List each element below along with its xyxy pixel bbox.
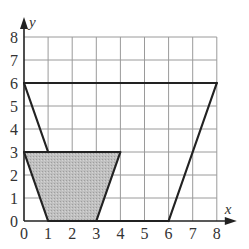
y-tick-label: 6 bbox=[10, 75, 18, 92]
x-tick-label: 0 bbox=[20, 225, 28, 242]
y-tick-label: 5 bbox=[10, 98, 18, 115]
coordinate-grid-figure: x y 012345678 012345678 bbox=[0, 0, 249, 249]
y-tick-label: 1 bbox=[10, 190, 18, 207]
x-tick-label: 5 bbox=[141, 225, 149, 242]
y-tick-label: 0 bbox=[10, 213, 18, 230]
y-tick-label: 7 bbox=[10, 52, 18, 69]
y-tick-label: 3 bbox=[10, 144, 18, 161]
x-tick-label: 7 bbox=[189, 225, 197, 242]
x-axis-label: x bbox=[224, 201, 232, 217]
y-axis-arrow-icon bbox=[20, 17, 28, 29]
x-tick-labels: 012345678 bbox=[20, 225, 221, 242]
x-tick-label: 1 bbox=[44, 225, 52, 242]
y-axis-label: y bbox=[27, 14, 36, 30]
y-tick-labels: 012345678 bbox=[10, 29, 18, 230]
x-tick-label: 3 bbox=[92, 225, 100, 242]
y-tick-label: 4 bbox=[10, 121, 18, 138]
y-tick-label: 2 bbox=[10, 167, 18, 184]
x-tick-label: 6 bbox=[165, 225, 173, 242]
x-tick-label: 8 bbox=[213, 225, 221, 242]
shaded-trapezoid bbox=[24, 152, 120, 221]
x-axis-arrow-icon bbox=[225, 217, 237, 225]
x-tick-label: 4 bbox=[116, 225, 124, 242]
x-tick-label: 2 bbox=[68, 225, 76, 242]
y-tick-label: 8 bbox=[10, 29, 18, 46]
